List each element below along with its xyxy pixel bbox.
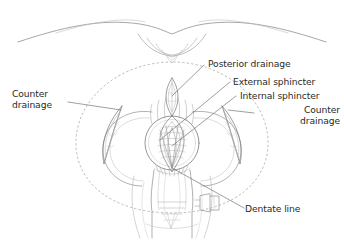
left-counter-drainage-incision [103,106,122,164]
label-external-sphincter: External sphincter [233,76,315,87]
leader-counter-drainage-left [68,102,121,110]
label-counter-drainage-right: Counter drainage [244,104,340,127]
buttock-cleft-outline [18,20,326,63]
internal-sphincter-lens [158,116,186,172]
label-dentate-line: Dentate line [245,203,300,214]
leader-posterior-drainage [172,65,204,96]
label-counter-drainage-right-line1: Counter [244,104,340,115]
label-counter-drainage-right-line2: drainage [244,115,340,126]
label-counter-drainage-left-line2: drainage [12,99,52,110]
label-posterior-drainage: Posterior drainage [208,58,290,69]
label-counter-drainage-left: Counter drainage [12,88,52,111]
leader-lines [68,65,254,208]
anorectal-diagram-figure: Counter drainage Posterior drainage Exte… [0,0,344,240]
label-counter-drainage-left-line1: Counter [12,88,52,99]
leader-external-sphincter [160,82,230,140]
posterior-drainage-incision [166,78,178,116]
label-internal-sphincter: Internal sphincter [240,90,319,101]
anal-canal-circle [145,116,199,170]
right-counter-drainage-incision [222,106,241,164]
